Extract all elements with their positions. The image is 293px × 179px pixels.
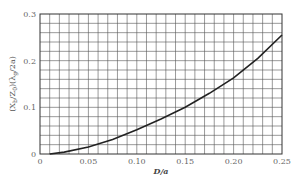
y-tick-labels: 00.10.20.3 xyxy=(23,10,36,159)
y-tick-label: 0.1 xyxy=(23,103,36,112)
grid xyxy=(40,14,282,154)
x-tick-label: 0.25 xyxy=(273,157,291,166)
y-tick-label: 0 xyxy=(31,150,36,159)
x-tick-label: 0 xyxy=(37,157,42,166)
x-tick-label: 0.20 xyxy=(225,157,243,166)
x-tick-label: 0.15 xyxy=(176,157,194,166)
y-tick-label: 0.2 xyxy=(23,57,36,66)
x-tick-labels: 00.050.100.150.200.25 xyxy=(37,157,290,166)
y-tick-label: 0.3 xyxy=(23,10,36,19)
chart: 00.050.100.150.200.25 00.10.20.3 D/a (Xb… xyxy=(0,0,293,179)
plot-frame xyxy=(40,14,282,154)
x-axis-label: D/a xyxy=(152,166,168,176)
x-tick-label: 0.05 xyxy=(79,157,97,166)
x-tick-label: 0.10 xyxy=(128,157,146,166)
y-axis-label: (Xb/Z0)(λg/2a) xyxy=(8,56,19,112)
